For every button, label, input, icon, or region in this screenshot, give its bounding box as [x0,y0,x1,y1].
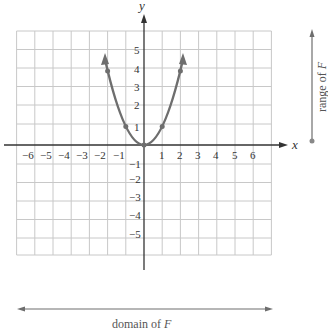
svg-text:2: 2 [134,99,140,111]
svg-text:−3: −3 [76,149,88,161]
point-neg2-4 [105,69,110,74]
svg-text:2: 2 [177,149,183,161]
svg-text:−3: −3 [129,191,141,203]
svg-text:−1: −1 [129,158,141,170]
y-axis [141,14,147,270]
domain-indicator: domain of F [17,307,273,332]
svg-text:−2: −2 [129,173,141,185]
svg-text:3: 3 [195,149,201,161]
svg-text:−5: −5 [129,228,141,240]
svg-text:5: 5 [232,149,238,161]
svg-text:−2: −2 [94,149,106,161]
parabola-figure: x y −6 −5 −4 −3 −2 −1 1 2 3 4 5 6 1 2 3 … [0,0,328,336]
svg-text:5: 5 [134,44,140,56]
point-0-0 [142,143,147,148]
svg-text:1: 1 [159,149,165,161]
point-neg1-1 [123,124,128,129]
range-indicator: range of F [310,29,328,144]
domain-right-arrowhead-icon [265,307,273,312]
svg-text:−4: −4 [58,149,70,161]
range-arrowhead-icon [310,29,315,37]
svg-text:−5: −5 [40,149,52,161]
x-axis-label: x [291,137,298,152]
range-start-dot [310,139,315,144]
y-axis-label: y [137,0,145,13]
svg-text:−4: −4 [129,209,141,221]
svg-text:1: 1 [134,121,140,133]
range-label: range of F [315,61,328,112]
svg-text:6: 6 [250,149,256,161]
svg-text:3: 3 [134,81,140,93]
svg-text:−1: −1 [113,149,125,161]
domain-left-arrowhead-icon [17,307,25,312]
svg-text:4: 4 [134,63,140,75]
point-1-1 [160,124,165,129]
svg-text:4: 4 [213,149,219,161]
domain-label: domain of F [112,317,172,331]
svg-text:−6: −6 [22,149,34,161]
point-2-4 [178,69,183,74]
